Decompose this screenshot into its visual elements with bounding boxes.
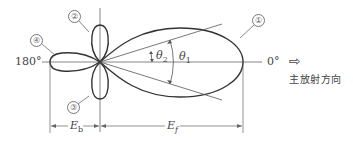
dim-label-eb: Eb [70, 120, 83, 134]
direction-arrow-icon: ⇨ [289, 54, 301, 68]
marker-upper-side-lobe: ② [68, 10, 81, 23]
main-lobe [100, 28, 243, 97]
beam-line-lower [100, 62, 222, 100]
theta1-label: θ1 [179, 51, 191, 65]
angle-label-0: 0° [267, 56, 280, 67]
theta2-label: θ2 [156, 50, 168, 64]
marker-main-lobe: ① [252, 14, 265, 27]
direction-label: 主放射方向 [289, 75, 342, 85]
angle-label-180: 180° [15, 56, 42, 67]
dim-label-ef: Ef [167, 120, 178, 134]
marker-lower-side-lobe: ③ [67, 101, 80, 114]
marker-back-lobe: ④ [30, 34, 43, 47]
